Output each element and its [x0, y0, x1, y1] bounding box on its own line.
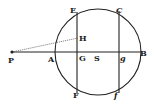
label-E: E — [70, 5, 76, 15]
label-A: A — [47, 54, 55, 64]
label-S: S — [94, 53, 100, 63]
geometry-diagram: P A G S g B E C H F f — [0, 0, 154, 107]
label-F: F — [73, 90, 79, 100]
label-G: G — [79, 53, 86, 63]
line-PH — [12, 38, 78, 52]
label-f: f — [113, 90, 119, 100]
label-C: C — [116, 5, 123, 15]
label-B: B — [140, 48, 147, 58]
label-H: H — [79, 33, 87, 43]
label-g: g — [120, 53, 126, 63]
point-P-dot — [10, 50, 13, 53]
label-P: P — [8, 55, 14, 65]
